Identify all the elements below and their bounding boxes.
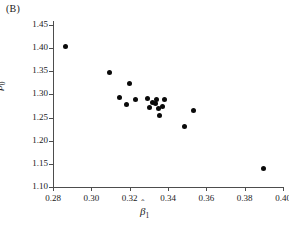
y-tick-label: 1.25 (32, 112, 48, 123)
data-point (261, 166, 266, 171)
data-point (157, 113, 162, 118)
data-point (160, 104, 165, 109)
data-point (147, 105, 152, 110)
y-axis-label: ˆβ0 (0, 81, 7, 90)
data-point (127, 81, 132, 86)
x-axis-label: ˆβ1 (0, 205, 289, 220)
y-tick-label: 1.30 (32, 88, 48, 99)
x-tick-mark (130, 187, 131, 191)
hat-accent-x-icon: ˆ (141, 200, 144, 209)
x-tick-mark (206, 187, 207, 191)
x-tick-mark (283, 187, 284, 191)
x-tick-label: 0.28 (45, 193, 61, 204)
x-axis-label-symbol: ˆβ (140, 205, 145, 217)
scatter-plot-figure: (B) 1.101.151.201.251.301.351.401.45 0.2… (0, 0, 289, 232)
plot-area: 1.101.151.201.251.301.351.401.45 0.280.3… (53, 25, 283, 187)
y-tick-label: 1.40 (32, 42, 48, 53)
data-point (162, 97, 167, 102)
y-tick-mark (49, 94, 53, 95)
data-point (63, 44, 68, 49)
data-point (191, 108, 196, 113)
y-tick-mark (49, 48, 53, 49)
data-point (182, 124, 187, 129)
data-point (107, 70, 112, 75)
y-tick-mark (49, 164, 53, 165)
y-tick-label: 1.20 (32, 135, 48, 146)
y-tick-label: 1.35 (32, 65, 48, 76)
y-tick-label: 1.15 (32, 158, 48, 169)
x-tick-mark (245, 187, 246, 191)
x-tick-label: 0.40 (275, 193, 289, 204)
data-point (145, 96, 150, 101)
x-tick-label: 0.32 (122, 193, 138, 204)
y-tick-label: 1.10 (32, 181, 48, 192)
data-point (117, 95, 122, 100)
data-point (133, 97, 138, 102)
y-tick-mark (49, 118, 53, 119)
x-axis-label-subscript: 1 (145, 211, 149, 220)
x-tick-mark (91, 187, 92, 191)
data-point (124, 102, 129, 107)
x-tick-mark (53, 187, 54, 191)
y-tick-mark (49, 141, 53, 142)
x-tick-label: 0.30 (83, 193, 99, 204)
y-axis-label-base: β (0, 85, 4, 90)
y-tick-mark (49, 25, 53, 26)
x-tick-label: 0.34 (160, 193, 176, 204)
data-point (154, 97, 159, 102)
y-axis-label-symbol: ˆβ (0, 85, 4, 90)
panel-label: (B) (6, 3, 20, 14)
x-tick-label: 0.38 (237, 193, 253, 204)
y-tick-mark (49, 71, 53, 72)
y-tick-label: 1.45 (32, 19, 48, 30)
x-tick-label: 0.36 (198, 193, 214, 204)
x-tick-mark (168, 187, 169, 191)
